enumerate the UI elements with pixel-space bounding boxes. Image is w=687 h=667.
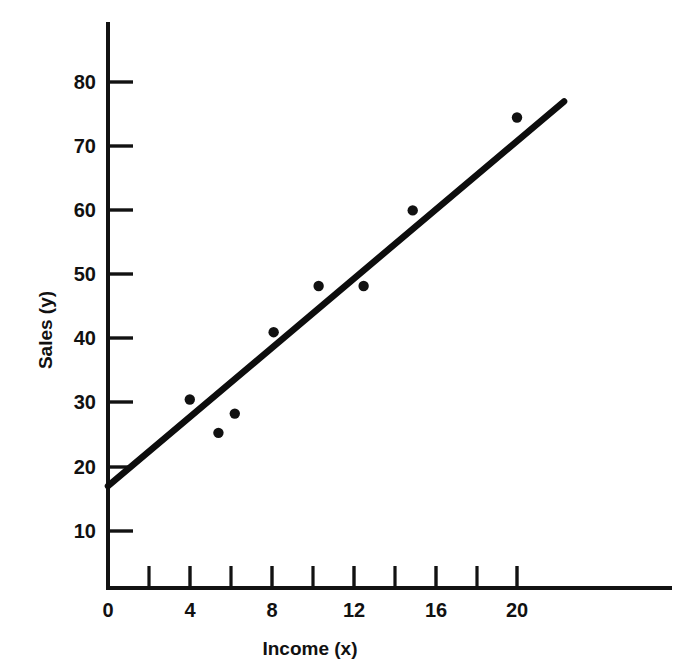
scatter-chart: 80 70 60 50 40 30 20 10 Sales (y) <box>0 0 687 667</box>
y-axis-title: Sales (y) <box>35 291 56 369</box>
data-point <box>213 428 223 438</box>
data-point <box>358 281 368 291</box>
x-axis-title: Income (x) <box>262 638 357 659</box>
y-tick-label: 10 <box>74 520 96 542</box>
x-tick-label: 20 <box>506 599 528 621</box>
y-tick-label: 30 <box>74 391 96 413</box>
data-point <box>512 112 522 122</box>
data-point <box>230 408 240 418</box>
y-tick-label: 40 <box>74 327 96 349</box>
y-tick-label: 20 <box>74 456 96 478</box>
y-tick-label: 80 <box>74 71 96 93</box>
x-tick-label: 0 <box>102 599 113 621</box>
data-point <box>313 281 323 291</box>
y-axis-tick-labels: 80 70 60 50 40 30 20 10 <box>74 71 96 542</box>
data-point <box>185 394 195 404</box>
data-point <box>268 327 278 337</box>
y-tick-label: 60 <box>74 199 96 221</box>
y-tick-label: 70 <box>74 135 96 157</box>
x-tick-label: 4 <box>184 599 196 621</box>
x-tick-label: 12 <box>343 599 365 621</box>
x-tick-label: 8 <box>266 599 277 621</box>
data-point <box>408 205 418 215</box>
x-axis-ticks <box>108 566 517 586</box>
x-axis-tick-labels: 0 4 8 12 16 20 <box>102 599 528 621</box>
chart-canvas: 80 70 60 50 40 30 20 10 Sales (y) <box>0 0 687 667</box>
y-tick-label: 50 <box>74 263 96 285</box>
x-tick-label: 16 <box>425 599 447 621</box>
regression-line <box>108 101 564 486</box>
